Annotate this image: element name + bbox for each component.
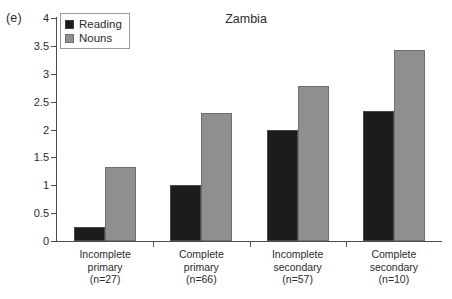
y-axis-tick-label: 2 xyxy=(3,124,49,136)
y-axis-tick xyxy=(51,213,56,214)
y-axis-tick xyxy=(51,130,56,131)
y-axis-tick-label: 4 xyxy=(3,12,49,24)
y-axis-tick-label: 3.5 xyxy=(3,40,49,52)
bar-reading-1 xyxy=(74,227,105,241)
y-axis-tick xyxy=(51,102,56,103)
bar-nouns-4 xyxy=(394,50,425,241)
x-axis-category-label: Incompletesecondary(n=57) xyxy=(250,248,346,286)
bar-nouns-2 xyxy=(201,113,232,241)
bar-reading-2 xyxy=(170,185,201,241)
legend-item-nouns: Nouns xyxy=(65,31,122,45)
y-axis-tick xyxy=(51,241,56,242)
x-axis-category-label: Completesecondary(n=10) xyxy=(346,248,442,286)
legend-item-reading: Reading xyxy=(65,17,122,31)
x-axis-category-label: Incompleteprimary(n=27) xyxy=(57,248,153,286)
x-axis-tick xyxy=(346,241,347,247)
x-axis-tick xyxy=(250,241,251,247)
x-axis-category-label: Completeprimary(n=66) xyxy=(153,248,249,286)
chart-figure: (e) Zambia 43.532.521.510.50 Reading Nou… xyxy=(0,0,452,299)
x-axis-category-labels: Incompleteprimary(n=27)Completeprimary(n… xyxy=(57,248,442,298)
x-axis-tick xyxy=(153,241,154,247)
y-axis-tick xyxy=(51,46,56,47)
legend-label-reading: Reading xyxy=(79,18,122,30)
legend-swatch-reading-icon xyxy=(65,20,74,29)
bar-nouns-1 xyxy=(105,167,136,241)
y-axis-tick xyxy=(51,157,56,158)
legend-label-nouns: Nouns xyxy=(79,32,112,44)
y-axis-tick-label: 0.5 xyxy=(3,207,49,219)
y-axis-tick-label: 0 xyxy=(3,235,49,247)
y-axis-tick xyxy=(51,74,56,75)
y-axis-tick-label: 1 xyxy=(3,179,49,191)
y-axis-tick xyxy=(51,18,56,19)
y-axis-tick-labels: 43.532.521.510.50 xyxy=(0,0,49,299)
bar-reading-4 xyxy=(363,111,394,241)
bar-reading-3 xyxy=(267,130,298,242)
plot-area xyxy=(57,18,442,241)
legend-swatch-nouns-icon xyxy=(65,34,74,43)
y-axis-tick-label: 3 xyxy=(3,68,49,80)
y-axis-tick-label: 1.5 xyxy=(3,151,49,163)
y-axis-tick xyxy=(51,185,56,186)
chart-legend: Reading Nouns xyxy=(60,13,130,49)
bar-nouns-3 xyxy=(298,86,329,241)
y-axis-tick-label: 2.5 xyxy=(3,96,49,108)
